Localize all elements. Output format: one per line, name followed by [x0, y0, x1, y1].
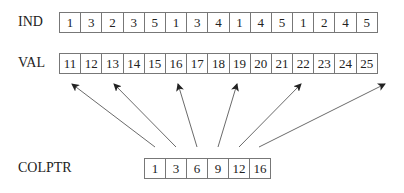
arrow-icon — [239, 84, 301, 147]
colptr-cell: 6 — [187, 159, 208, 178]
colptr-cell: 16 — [250, 159, 271, 178]
colptr-array: 1 3 6 9 12 16 — [144, 158, 271, 179]
arrow-icon — [218, 84, 237, 147]
colptr-cell: 3 — [166, 159, 187, 178]
arrow-icon — [72, 84, 155, 147]
colptr-cell: 1 — [145, 159, 166, 178]
colptr-cell: 9 — [208, 159, 229, 178]
arrow-icon — [178, 84, 197, 147]
colptr-label: COLPTR — [18, 157, 72, 178]
arrow-icon — [114, 84, 176, 147]
arrow-icon — [259, 84, 385, 147]
colptr-cell: 12 — [229, 159, 250, 178]
